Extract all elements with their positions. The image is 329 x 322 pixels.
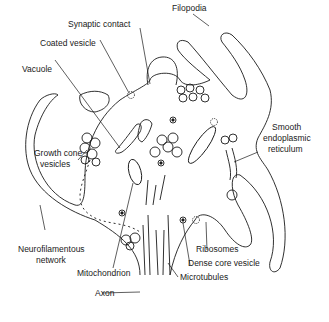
- label-coated-vesicle: Coated vesicle: [40, 38, 96, 48]
- label-smooth-er-line2: endoplasmic: [263, 133, 311, 143]
- dense-core-vesicles: [119, 117, 186, 223]
- label-neurofilamentous-line2: network: [36, 255, 66, 265]
- label-smooth-er-line1: Smooth: [272, 122, 301, 132]
- label-axon: Axon: [95, 288, 114, 298]
- label-growth-cone-vesicles-line1: Growth cone: [34, 148, 82, 158]
- label-neurofilamentous-line1: Neurofilamentous: [18, 244, 85, 254]
- vacuole-shape: [115, 124, 141, 153]
- microtubules: [143, 175, 170, 275]
- synaptic-contact-shape: [147, 57, 177, 85]
- mitochondrion-shape: [126, 158, 144, 186]
- label-growth-cone-vesicles-line2: vesicles: [40, 159, 70, 169]
- label-filopodia: Filopodia: [172, 3, 207, 13]
- label-mitochondrion: Mitochondrion: [77, 268, 130, 278]
- label-dense-core-vesicle: Dense core vesicle: [188, 258, 260, 268]
- label-microtubules: Microtubules: [180, 272, 228, 282]
- label-smooth-er-line3: reticulum: [268, 144, 302, 154]
- label-vacuole: Vacuole: [22, 64, 52, 74]
- label-ribosomes: Ribosomes: [196, 244, 239, 254]
- label-synaptic-contact: Synaptic contact: [68, 19, 130, 29]
